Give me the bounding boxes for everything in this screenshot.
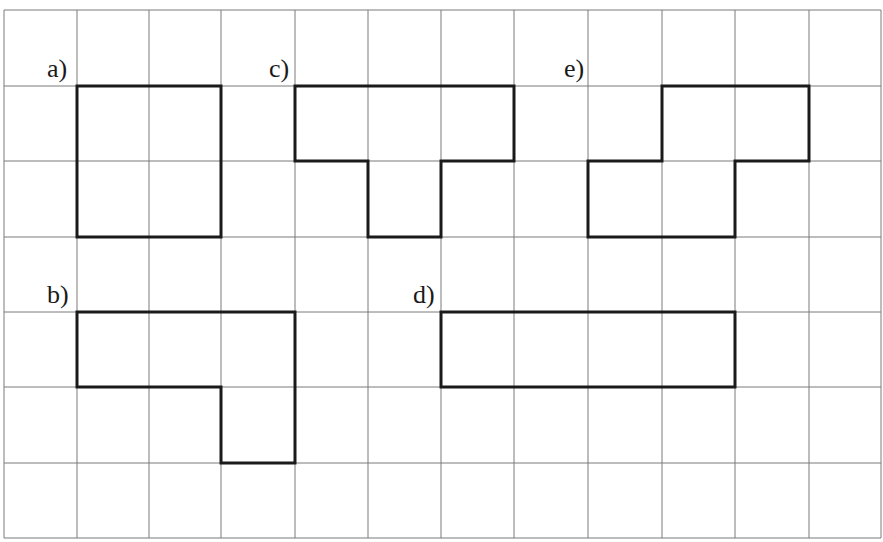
grid-diagram [0, 0, 883, 542]
label-b: b) [47, 282, 69, 308]
label-e: e) [564, 56, 584, 82]
label-d: d) [413, 282, 435, 308]
grid-lines [4, 10, 881, 538]
shapes [77, 86, 809, 463]
label-a: a) [47, 56, 67, 82]
label-c: c) [269, 56, 289, 82]
